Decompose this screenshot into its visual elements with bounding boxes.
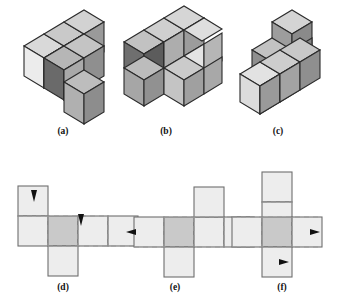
figure-plate: (a) (b) (c) (d) (e) (f) — [0, 0, 338, 302]
net-f-cell-left — [232, 217, 262, 247]
figure-label-e: (e) — [155, 282, 195, 292]
net-e-cell-left — [134, 217, 164, 247]
net-f-cell-top — [262, 172, 292, 202]
net-d-cell-left — [18, 216, 48, 246]
figure-label-d: (d) — [43, 282, 83, 292]
figure-canvas — [0, 0, 338, 302]
panel-a-cube-assembly — [24, 10, 104, 124]
net-e-cell-center — [164, 217, 194, 247]
panel-b-cube-assembly — [124, 6, 222, 106]
panel-d-cube-net — [18, 186, 138, 276]
panel-c-cube-assembly — [240, 10, 320, 114]
net-d-cell-down — [48, 246, 78, 276]
figure-label-b: (b) — [146, 126, 186, 136]
net-d-cell-right1 — [78, 216, 108, 246]
net-e-cell-right1 — [194, 217, 224, 247]
figure-label-f: (f) — [262, 282, 302, 292]
figure-label-c: (c) — [258, 126, 298, 136]
net-d-cell-center — [48, 216, 78, 246]
net-e-cell-down — [164, 247, 194, 277]
net-f-cell-center — [262, 217, 292, 247]
figure-label-a: (a) — [43, 126, 83, 136]
panel-f-cube-net — [232, 172, 322, 277]
net-e-cell-up — [194, 187, 224, 217]
